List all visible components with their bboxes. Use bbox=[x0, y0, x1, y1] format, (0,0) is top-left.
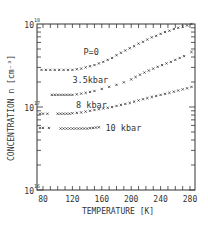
svg-text:17: 17 bbox=[34, 100, 40, 106]
series-3-5kbar bbox=[51, 51, 193, 96]
data-series bbox=[39, 23, 193, 130]
series-labels: P=03.5kbar8 kbar10 kbar bbox=[72, 47, 141, 133]
series-label: 8 kbar bbox=[76, 100, 107, 110]
y-axis-ticks bbox=[37, 28, 195, 190]
svg-text:18: 18 bbox=[34, 17, 40, 23]
x-axis-ticks bbox=[43, 24, 190, 190]
svg-text:10: 10 bbox=[24, 187, 34, 196]
svg-text:10: 10 bbox=[24, 21, 34, 30]
x-tick-label: 80 bbox=[38, 195, 48, 204]
y-tick-labels: 101810171016 bbox=[24, 17, 40, 196]
series-label: 3.5kbar bbox=[72, 75, 108, 85]
series-10-kbar bbox=[39, 126, 100, 129]
x-tick-labels: 80120160200240280 bbox=[38, 195, 197, 204]
y-axis-title: CONCENTRATION n [cm⁻³] bbox=[7, 55, 16, 161]
series-label: P=0 bbox=[83, 47, 98, 57]
concentration-vs-temperature-chart: 80120160200240280 101810171016 P=03.5kba… bbox=[0, 0, 208, 228]
x-tick-label: 200 bbox=[124, 195, 139, 204]
chart-canvas: 80120160200240280 101810171016 P=03.5kba… bbox=[0, 0, 208, 228]
svg-text:16: 16 bbox=[34, 183, 40, 189]
svg-text:10: 10 bbox=[24, 104, 34, 113]
x-tick-label: 240 bbox=[153, 195, 168, 204]
x-axis-title: TEMPERATURE [K] bbox=[82, 207, 154, 216]
x-tick-label: 280 bbox=[183, 195, 198, 204]
x-tick-label: 120 bbox=[65, 195, 80, 204]
series-p-0 bbox=[40, 23, 192, 71]
series-label: 10 kbar bbox=[105, 123, 141, 133]
series-8-kbar bbox=[39, 86, 193, 115]
x-tick-label: 160 bbox=[95, 195, 110, 204]
